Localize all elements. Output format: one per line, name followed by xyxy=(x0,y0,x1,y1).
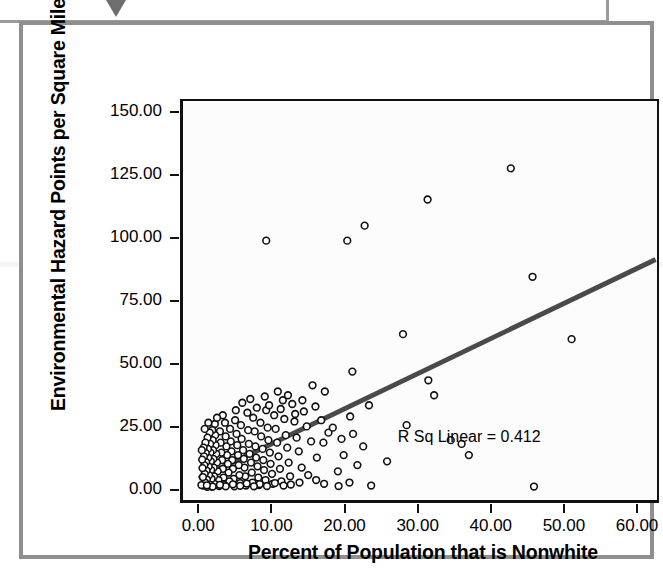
data-point xyxy=(217,481,224,488)
data-point xyxy=(245,441,252,448)
data-point xyxy=(287,473,294,480)
data-point xyxy=(269,470,276,477)
data-point xyxy=(309,382,316,389)
data-point xyxy=(346,479,353,486)
x-axis-tick-mark xyxy=(636,504,638,513)
data-point xyxy=(199,465,206,472)
data-point xyxy=(295,448,302,455)
data-point xyxy=(200,474,207,481)
data-point xyxy=(252,443,259,450)
data-point xyxy=(275,453,282,460)
y-axis-tick-label: 75.00 xyxy=(70,290,162,310)
data-point xyxy=(291,418,298,425)
y-axis-tick-mark xyxy=(170,237,179,239)
data-point xyxy=(272,426,279,433)
data-point xyxy=(340,452,347,459)
data-point xyxy=(289,401,296,408)
y-axis-title: Environmental Hazard Points per Square M… xyxy=(47,0,70,440)
data-point xyxy=(254,463,261,470)
data-point xyxy=(251,428,258,435)
data-point xyxy=(234,442,241,449)
x-axis-tick-label: 60.00 xyxy=(592,516,663,536)
data-point xyxy=(274,388,281,395)
data-point xyxy=(368,482,375,489)
data-point xyxy=(245,427,252,434)
data-point xyxy=(300,408,307,415)
data-point xyxy=(529,273,536,280)
data-point xyxy=(360,443,367,450)
data-point xyxy=(259,446,266,453)
data-point xyxy=(255,474,262,481)
data-point xyxy=(354,462,361,469)
data-point xyxy=(335,483,342,490)
data-point xyxy=(237,482,244,489)
y-axis-tick-mark xyxy=(170,300,179,302)
data-point xyxy=(313,477,320,484)
data-point xyxy=(222,433,229,440)
y-axis-tick-mark xyxy=(170,174,179,176)
data-point xyxy=(347,413,354,420)
data-point xyxy=(366,402,373,409)
data-point xyxy=(199,456,206,463)
data-point xyxy=(425,377,432,384)
data-point xyxy=(222,419,229,426)
data-point xyxy=(265,437,272,444)
data-point xyxy=(214,414,221,421)
x-axis-tick-mark xyxy=(563,504,565,513)
data-point xyxy=(261,467,268,474)
data-point xyxy=(235,452,242,459)
data-point xyxy=(303,423,310,430)
data-point xyxy=(227,426,234,433)
data-point xyxy=(277,406,284,413)
data-point xyxy=(568,336,575,343)
data-point xyxy=(318,417,325,424)
y-axis-tick-mark xyxy=(170,489,179,491)
page-divider-top-right xyxy=(606,0,609,22)
data-point xyxy=(465,452,472,459)
data-point xyxy=(272,480,279,487)
y-axis-tick-label: 25.00 xyxy=(70,416,162,436)
data-point xyxy=(239,399,246,406)
data-point xyxy=(384,458,391,465)
data-point xyxy=(264,424,271,431)
figure-frame: Environmental Hazard Points per Square M… xyxy=(19,21,654,559)
data-point xyxy=(293,434,300,441)
data-point xyxy=(350,431,357,438)
data-point xyxy=(232,407,239,414)
data-point xyxy=(285,392,292,399)
data-point xyxy=(287,481,294,488)
data-point xyxy=(329,424,336,431)
data-point xyxy=(431,392,438,399)
data-point xyxy=(274,439,281,446)
data-point xyxy=(267,460,274,467)
data-point xyxy=(285,459,292,466)
y-axis-tick-label: 50.00 xyxy=(70,353,162,373)
data-point xyxy=(266,402,273,409)
data-point xyxy=(238,422,245,429)
data-point xyxy=(232,417,239,424)
data-point xyxy=(266,449,273,456)
x-axis-title: Percent of Population that is Nonwhite xyxy=(173,541,663,564)
data-point xyxy=(308,438,315,445)
data-point xyxy=(248,459,255,466)
rsq-annotation: R Sq Linear = 0.412 xyxy=(398,428,541,446)
data-point xyxy=(305,472,312,479)
data-point xyxy=(282,432,289,439)
data-point xyxy=(277,465,284,472)
data-point xyxy=(507,165,514,172)
x-axis-tick-mark xyxy=(270,504,272,513)
y-axis-tick-mark xyxy=(170,111,179,113)
y-axis-tick-label: 150.00 xyxy=(70,101,162,121)
data-point xyxy=(198,447,205,454)
data-point xyxy=(253,404,260,411)
data-point xyxy=(280,482,287,489)
triangle-down-icon xyxy=(106,0,126,17)
data-point xyxy=(299,397,306,404)
data-point xyxy=(244,409,251,416)
data-point xyxy=(281,416,288,423)
data-point xyxy=(204,482,211,489)
data-point xyxy=(257,419,264,426)
x-axis-tick-mark xyxy=(344,504,346,513)
data-point xyxy=(321,480,328,487)
data-point xyxy=(312,403,319,410)
